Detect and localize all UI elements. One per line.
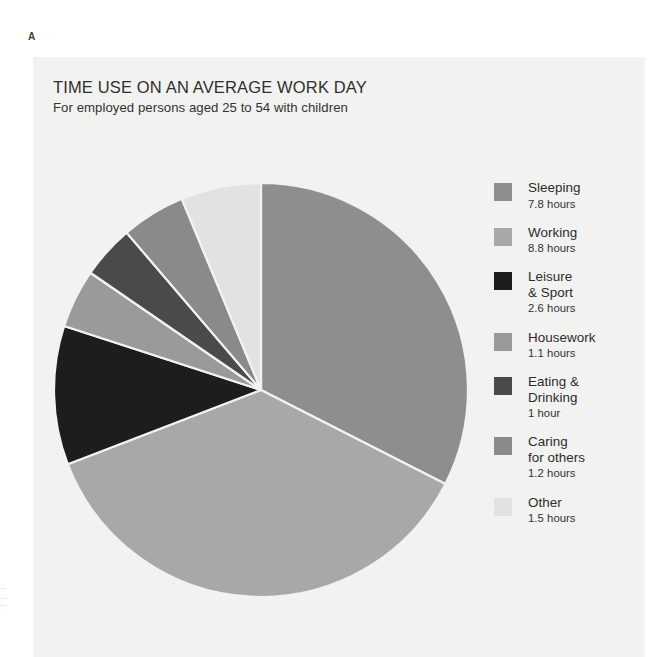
legend-swatch-icon	[494, 498, 512, 516]
legend-value: 8.8 hours	[528, 241, 644, 255]
legend-item[interactable]: Working8.8 hours	[494, 225, 644, 256]
legend-swatch-icon	[494, 333, 512, 351]
pie-slice-group: Sleeping — 7.8 hoursWorking — 8.8 hoursL…	[54, 183, 468, 597]
legend-item[interactable]: Caring for others1.2 hours	[494, 434, 644, 480]
legend-swatch-icon	[494, 183, 512, 201]
legend-label: Caring for others	[528, 434, 644, 465]
legend-swatch-icon	[494, 377, 512, 395]
legend-swatch-icon	[494, 228, 512, 246]
legend-label: Sleeping	[528, 180, 644, 196]
margin-marginalia-text: ·|·|··|·	[0, 430, 10, 610]
legend-text: Other1.5 hours	[528, 495, 644, 526]
legend-value: 2.6 hours	[528, 301, 644, 315]
legend-label: Other	[528, 495, 644, 511]
legend-text: Working8.8 hours	[528, 225, 644, 256]
figure-letter: A	[28, 31, 35, 42]
legend-label: Working	[528, 225, 644, 241]
legend-item[interactable]: Sleeping7.8 hours	[494, 180, 644, 211]
legend-item[interactable]: Eating & Drinking1 hour	[494, 374, 644, 420]
legend-label: Housework	[528, 330, 644, 346]
legend-label: Leisure & Sport	[528, 269, 644, 300]
legend-text: Caring for others1.2 hours	[528, 434, 644, 480]
legend-item[interactable]: Other1.5 hours	[494, 495, 644, 526]
legend-text: Sleeping7.8 hours	[528, 180, 644, 211]
legend-text: Eating & Drinking1 hour	[528, 374, 644, 420]
legend-value: 1.5 hours	[528, 511, 644, 525]
legend-value: 7.8 hours	[528, 197, 644, 211]
legend-value: 1.2 hours	[528, 466, 644, 480]
legend-item[interactable]: Leisure & Sport2.6 hours	[494, 269, 644, 315]
legend-text: Leisure & Sport2.6 hours	[528, 269, 644, 315]
chart-panel: TIME USE ON AN AVERAGE WORK DAY For empl…	[33, 57, 645, 657]
legend-swatch-icon	[494, 272, 512, 290]
legend-label: Eating & Drinking	[528, 374, 644, 405]
legend-value: 1.1 hours	[528, 346, 644, 360]
chart-legend: Sleeping7.8 hoursWorking8.8 hoursLeisure…	[494, 180, 644, 539]
legend-text: Housework1.1 hours	[528, 330, 644, 361]
legend-swatch-icon	[494, 437, 512, 455]
legend-item[interactable]: Housework1.1 hours	[494, 330, 644, 361]
legend-value: 1 hour	[528, 406, 644, 420]
